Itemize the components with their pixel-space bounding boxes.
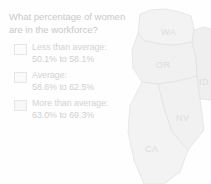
legend-item-range: 58.6% to 62.5%	[32, 82, 132, 94]
legend-item-range: 50.1% to 58.1%	[32, 54, 132, 66]
state-label-nv: NV	[176, 113, 189, 123]
legend-swatch-icon	[14, 72, 27, 83]
state-label-id: ID	[199, 77, 209, 87]
legend-item-label: Average:	[32, 70, 132, 82]
legend-item-text: More than average: 63.0% to 69.3%	[32, 98, 132, 121]
legend-item-text: Less than average: 50.1% to 58.1%	[32, 42, 132, 65]
state-label-ca: CA	[145, 144, 158, 154]
page-title-line-2: are in the workforce?	[9, 24, 129, 37]
legend-swatch-icon	[14, 100, 27, 111]
legend-item-more-than-average[interactable]: More than average: 63.0% to 69.3%	[14, 98, 132, 126]
choropleth-map-visualization: WA OR ID NV CA What percentage of women …	[0, 0, 211, 184]
legend-item-text: Average: 58.6% to 62.5%	[32, 70, 132, 93]
page-title: What percentage of women are in the work…	[9, 11, 129, 36]
legend-item-label: More than average:	[32, 98, 132, 110]
state-label-or: OR	[156, 60, 170, 70]
legend-swatch-icon	[14, 44, 27, 55]
legend-item-less-than-average[interactable]: Less than average: 50.1% to 58.1%	[14, 42, 132, 70]
state-label-wa: WA	[161, 27, 176, 37]
legend-item-label: Less than average:	[32, 42, 132, 54]
legend: Less than average: 50.1% to 58.1% Averag…	[14, 42, 132, 126]
legend-item-range: 63.0% to 69.3%	[32, 110, 132, 122]
page-title-line-1: What percentage of women	[9, 11, 129, 24]
legend-panel: What percentage of women are in the work…	[0, 0, 132, 184]
legend-item-average[interactable]: Average: 58.6% to 62.5%	[14, 70, 132, 98]
